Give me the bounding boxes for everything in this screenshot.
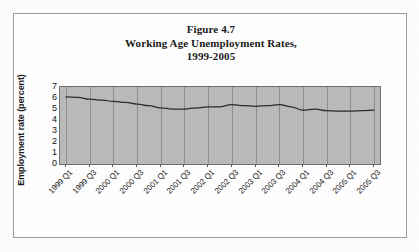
series-path-unemployment-rate <box>66 97 374 111</box>
y-axis-title-text: Employment rate (percent) <box>16 74 26 186</box>
y-axis-title: Employment rate (percent) <box>14 70 28 190</box>
x-tick-label: 2005 Q1 <box>331 168 359 196</box>
x-tick-mark <box>326 164 327 167</box>
title-line-3: 1999-2005 <box>14 50 408 64</box>
y-tick-7: 7 <box>40 82 57 91</box>
x-tick-mark <box>112 164 113 167</box>
y-tick-5: 5 <box>40 104 57 113</box>
x-tick-label: 2004 Q1 <box>284 168 312 196</box>
x-tick-mark <box>207 164 208 167</box>
y-tick-4: 4 <box>40 115 57 124</box>
x-tick-mark <box>183 164 184 167</box>
y-tick-3: 3 <box>40 126 57 135</box>
y-axis-tick-labels: 01234567 <box>40 86 57 163</box>
x-tick-label: 1999 Q3 <box>70 168 98 196</box>
x-tick-label: 2002 Q1 <box>189 168 217 196</box>
series-line-chart <box>60 87 380 164</box>
x-tick-mark <box>255 164 256 167</box>
y-tick-0: 0 <box>40 159 57 168</box>
x-tick-mark <box>278 164 279 167</box>
x-tick-label: 2000 Q3 <box>118 168 146 196</box>
x-tick-mark <box>373 164 374 167</box>
chart-title: Figure 4.7 Working Age Unemployment Rate… <box>14 23 408 64</box>
x-tick-label: 2000 Q1 <box>94 168 122 196</box>
x-tick-label: 2005 Q3 <box>355 168 383 196</box>
x-tick-mark <box>231 164 232 167</box>
x-tick-label: 2004 Q3 <box>307 168 335 196</box>
x-tick-label: 2002 Q3 <box>213 168 241 196</box>
x-tick-mark <box>349 164 350 167</box>
x-axis-tick-labels: 1999 Q11999 Q32000 Q12000 Q32001 Q12001 … <box>59 168 381 228</box>
x-tick-mark <box>65 164 66 167</box>
y-tick-1: 1 <box>40 148 57 157</box>
x-tick-label: 2003 Q3 <box>260 168 288 196</box>
x-tick-mark <box>302 164 303 167</box>
x-tick-label: 2001 Q1 <box>142 168 170 196</box>
x-tick-mark <box>160 164 161 167</box>
x-tick-label: 2001 Q3 <box>165 168 193 196</box>
title-line-1: Figure 4.7 <box>14 23 408 37</box>
x-tick-mark <box>136 164 137 167</box>
title-line-2: Working Age Unemployment Rates, <box>14 37 408 51</box>
x-tick-label: 2003 Q1 <box>236 168 264 196</box>
y-tick-6: 6 <box>40 93 57 102</box>
y-tick-2: 2 <box>40 137 57 146</box>
plot-area <box>59 86 381 165</box>
plot-inner <box>60 87 380 164</box>
x-tick-mark <box>89 164 90 167</box>
